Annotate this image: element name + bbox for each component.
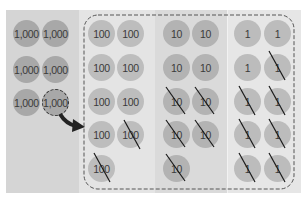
- regroup-arrow-icon: [60, 114, 85, 132]
- annotation-overlay: [0, 0, 305, 203]
- regroup-dashed-border: [84, 15, 294, 189]
- cross-out-slashes: [94, 51, 285, 182]
